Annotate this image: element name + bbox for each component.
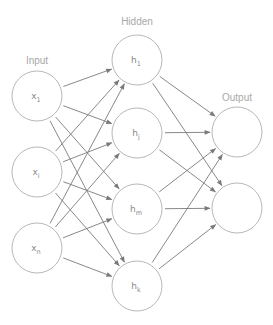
node-x1: x1 [12, 71, 62, 121]
node-circle [212, 107, 262, 157]
network-nodes: x1xixnh1hjhmhk [12, 35, 262, 311]
edge-h1-o1 [160, 76, 215, 116]
node-hm: hm [112, 184, 162, 234]
output-layer-label: Output [222, 92, 252, 103]
node-h1: h1 [112, 35, 162, 85]
node-o2 [212, 183, 262, 233]
connection-edges [50, 69, 222, 276]
node-hk: hk [112, 261, 162, 311]
neural-network-diagram: x1xixnh1hjhmhk Input Hidden Output [0, 0, 273, 325]
node-xi: xi [12, 147, 62, 197]
edge-hk-o2 [159, 225, 216, 269]
edge-xn-hm [63, 219, 112, 238]
node-hj: hj [112, 108, 162, 158]
node-xn: xn [12, 223, 62, 273]
edge-xn-hj [55, 153, 119, 227]
edge-xi-h1 [56, 80, 119, 151]
node-o1 [212, 107, 262, 157]
input-layer-label: Input [26, 55, 48, 66]
edge-xi-hk [56, 193, 120, 266]
edge-x1-h1 [63, 69, 111, 86]
edge-xn-hk [63, 258, 112, 277]
hidden-layer-label: Hidden [121, 16, 153, 27]
node-circle [212, 183, 262, 233]
